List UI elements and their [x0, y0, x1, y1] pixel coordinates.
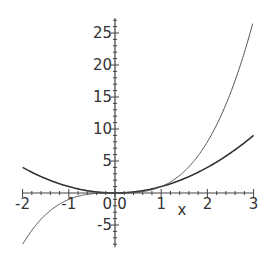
curve-x2: [23, 135, 254, 193]
y-tick-label: 20: [93, 56, 112, 74]
x-tick-label: 2: [203, 195, 213, 213]
curves: [23, 24, 254, 245]
y-tick-label: 10: [93, 120, 112, 138]
y-tick-label: 25: [93, 24, 112, 42]
x-tick-label: -2: [15, 195, 30, 213]
x-axis-label: x: [178, 201, 187, 219]
x-tick-label: 3: [249, 195, 259, 213]
axes: [23, 18, 254, 247]
y-tick-label: -5: [97, 216, 112, 234]
plot-area: -2-10123-50510152025x: [0, 0, 268, 262]
y-tick-label: 15: [93, 88, 112, 106]
x-tick-label: -1: [61, 195, 76, 213]
y-tick-label: 0: [102, 195, 112, 213]
tick-labels: -2-10123-50510152025x: [15, 24, 258, 234]
x-tick-label: 1: [156, 195, 166, 213]
x-tick-label: 0: [117, 195, 127, 213]
y-tick-label: 5: [102, 152, 112, 170]
curve-x3: [23, 24, 253, 245]
